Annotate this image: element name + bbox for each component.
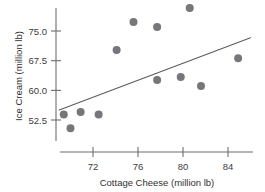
data-point <box>95 110 103 118</box>
x-tick-labels: 72 76 80 84 <box>88 161 234 172</box>
plot-canvas: 75.0 67.5 60.0 52.5 72 76 80 84 Cottage … <box>0 0 265 192</box>
data-point <box>153 23 161 31</box>
y-tick-label-52-5: 52.5 <box>29 115 48 126</box>
data-point <box>113 46 121 54</box>
y-tick-label-60: 60.0 <box>29 85 48 96</box>
x-tick-label-76: 76 <box>133 161 144 172</box>
data-points <box>60 4 242 132</box>
data-point <box>60 110 68 118</box>
data-point <box>186 4 194 12</box>
data-point <box>153 76 161 84</box>
trend-line <box>59 38 250 110</box>
y-tick-label-67-5: 67.5 <box>29 55 48 66</box>
x-axis-title: Cottage Cheese (million lb) <box>100 177 215 188</box>
y-axis-title: Ice Cream (million lb) <box>13 31 24 121</box>
x-tick-label-80: 80 <box>178 161 189 172</box>
data-point <box>67 124 75 132</box>
data-point <box>130 18 138 26</box>
x-tick-label-84: 84 <box>223 161 234 172</box>
y-tick-labels: 75.0 67.5 60.0 52.5 <box>29 26 48 126</box>
data-point <box>177 73 185 81</box>
data-point <box>197 82 205 90</box>
x-tick-label-72: 72 <box>88 161 99 172</box>
data-point <box>77 108 85 116</box>
scatter-chart: 75.0 67.5 60.0 52.5 72 76 80 84 Cottage … <box>0 0 265 192</box>
y-tick-label-75: 75.0 <box>29 26 48 37</box>
data-point <box>234 54 242 62</box>
